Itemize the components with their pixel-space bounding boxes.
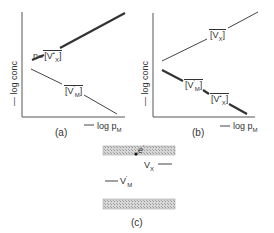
- panel-b-vm-line: [162, 70, 183, 81]
- panel-a-vm-line: [31, 69, 62, 84]
- panel-b-x-label: log pM: [233, 121, 258, 131]
- panel-b-axes: [153, 13, 255, 117]
- panel-a-vm-line-2: [84, 95, 117, 114]
- panel-a-y-label: — log conc: [9, 61, 19, 106]
- panel-b-vm-label: [V'M]: [184, 79, 203, 90]
- panel-b-caption: (b): [192, 127, 204, 138]
- panel-b-vx-dot-line: [229, 104, 247, 114]
- panel-b-vx-line-2: [228, 12, 258, 28]
- panel-b-vx-label: [VX]: [209, 29, 226, 40]
- vm-level-label: V'M: [120, 176, 132, 186]
- vx-level-label: VX: [144, 160, 154, 170]
- valence-band: [103, 199, 175, 209]
- panel-b-vx-dot-label: [V•X]: [210, 93, 229, 104]
- panel-a-vx-label: n=[V•X]: [33, 50, 62, 61]
- panel-a-vx-line: [60, 13, 125, 48]
- panel-b-y-label: — log conc: [140, 61, 150, 106]
- panel-a-x-label: log pM: [97, 121, 122, 131]
- panel-a-vm-label: [V'M]: [64, 85, 83, 96]
- panel-c-caption: (c): [131, 217, 143, 228]
- panel-a-axes: [22, 12, 125, 117]
- panel-b-vm-line-2: [203, 90, 209, 94]
- panel-a-caption: (a): [55, 127, 67, 138]
- electron-label: e': [138, 145, 144, 155]
- panel-b-vx-line: [162, 39, 207, 61]
- diagram-canvas: [0, 0, 274, 233]
